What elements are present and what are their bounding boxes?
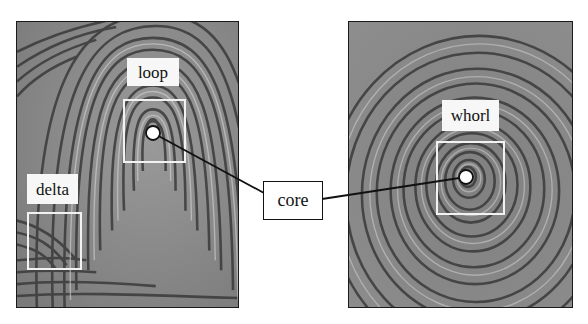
core-callout: core — [263, 181, 323, 220]
delta-region-box — [27, 212, 82, 270]
loop-label: loop — [127, 58, 179, 86]
loop-region-box — [123, 99, 186, 163]
delta-label: delta — [27, 174, 78, 204]
whorl-region-box — [436, 141, 505, 215]
whorl-label: whorl — [442, 100, 499, 131]
